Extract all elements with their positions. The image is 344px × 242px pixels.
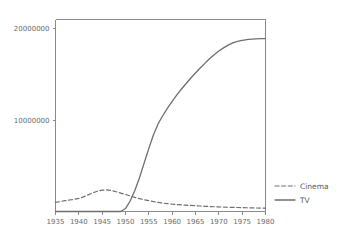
- x-axis-label-1965: 1965: [187, 218, 205, 226]
- x-axis-label-1975: 1975: [233, 218, 251, 226]
- x-axis-label-1950: 1950: [117, 218, 135, 226]
- data-series-group: [56, 39, 266, 212]
- axis-spine: [56, 20, 266, 212]
- x-axis-label-1970: 1970: [210, 218, 228, 226]
- x-axis-label-1940: 1940: [70, 218, 88, 226]
- y-axis-label-10000000: 10000000: [14, 117, 50, 125]
- x-axis-label-1960: 1960: [163, 218, 181, 226]
- y-axis-label-20000000: 20000000: [14, 25, 50, 33]
- x-axis-label-1945: 1945: [93, 218, 111, 226]
- line-chart: 1000000020000000 19351940194519501955196…: [0, 0, 344, 242]
- x-axis-label-1980: 1980: [257, 218, 275, 226]
- legend-label-tv: TV: [299, 196, 311, 205]
- chart-canvas: 1000000020000000 19351940194519501955196…: [0, 0, 344, 242]
- series-line-tv: [56, 39, 266, 212]
- y-axis-tick-labels: 1000000020000000: [14, 25, 50, 124]
- chart-legend: CinemaTV: [275, 182, 329, 205]
- x-axis-label-1935: 1935: [47, 218, 65, 226]
- x-axis-label-1955: 1955: [140, 218, 158, 226]
- legend-label-cinema: Cinema: [300, 182, 329, 191]
- series-line-cinema: [56, 190, 266, 208]
- x-axis-tick-labels: 1935194019451950195519601965197019751980: [47, 218, 275, 226]
- axis-lines: [56, 20, 266, 212]
